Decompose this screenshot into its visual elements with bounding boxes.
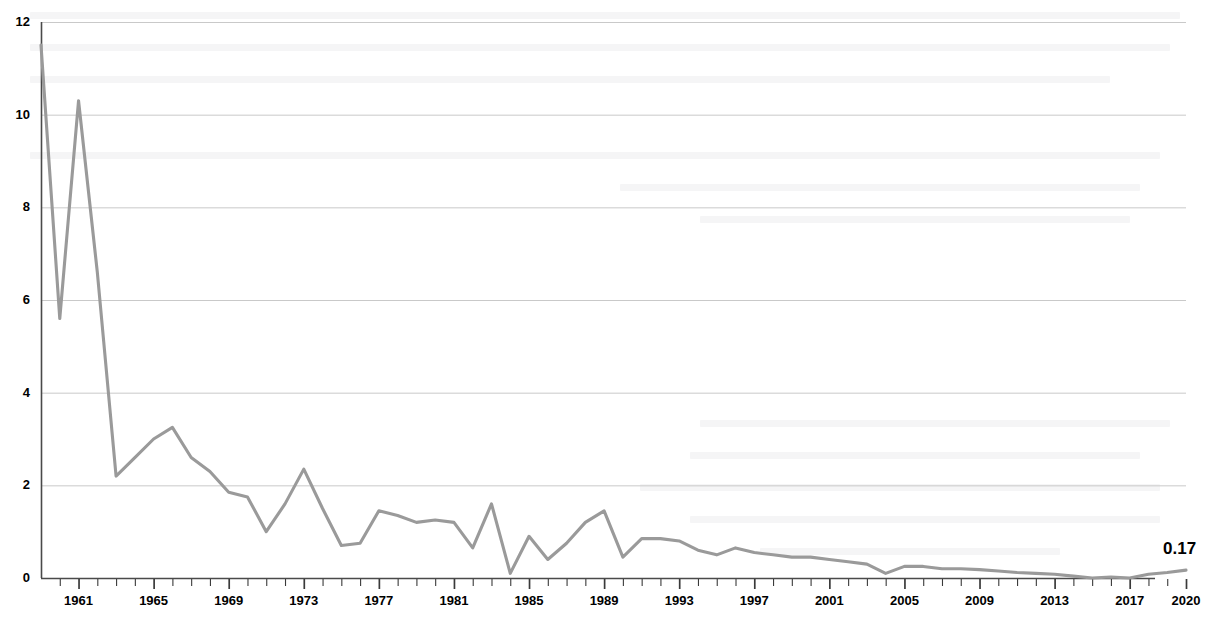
plot-area xyxy=(0,0,1223,624)
x-axis-tick-label: 2005 xyxy=(877,594,931,608)
x-axis-tick-label: 1969 xyxy=(202,594,256,608)
data-series-line xyxy=(41,45,1186,578)
line-chart: 024681012 196119651969197319771981198519… xyxy=(0,0,1223,624)
x-axis-tick-label: 2013 xyxy=(1028,594,1082,608)
y-axis-tick-label: 0 xyxy=(4,571,30,584)
x-axis-tick-label: 2001 xyxy=(802,594,856,608)
x-axis-tick-label: 1961 xyxy=(52,594,106,608)
y-axis-tick-label: 6 xyxy=(4,293,30,306)
y-axis-tick-label: 12 xyxy=(4,15,30,28)
x-axis-tick-label: 1965 xyxy=(127,594,181,608)
y-axis-tick-label: 8 xyxy=(4,200,30,213)
x-axis-tick-label: 2009 xyxy=(953,594,1007,608)
x-axis-tick-label: 2020 xyxy=(1159,594,1213,608)
x-axis-tick-label: 1977 xyxy=(352,594,406,608)
x-axis-tick-label: 1989 xyxy=(577,594,631,608)
y-axis-tick-label: 10 xyxy=(4,108,30,121)
x-axis-tick-label: 2017 xyxy=(1103,594,1157,608)
x-axis-tick-label: 1985 xyxy=(502,594,556,608)
y-axis-tick-label: 2 xyxy=(4,478,30,491)
x-axis-tick-label: 1997 xyxy=(727,594,781,608)
end-value-annotation: 0.17 xyxy=(1163,539,1196,559)
x-axis-tick-label: 1993 xyxy=(652,594,706,608)
y-axis-tick-label: 4 xyxy=(4,386,30,399)
x-axis-tick-label: 1981 xyxy=(427,594,481,608)
x-axis-tick-label: 1973 xyxy=(277,594,331,608)
